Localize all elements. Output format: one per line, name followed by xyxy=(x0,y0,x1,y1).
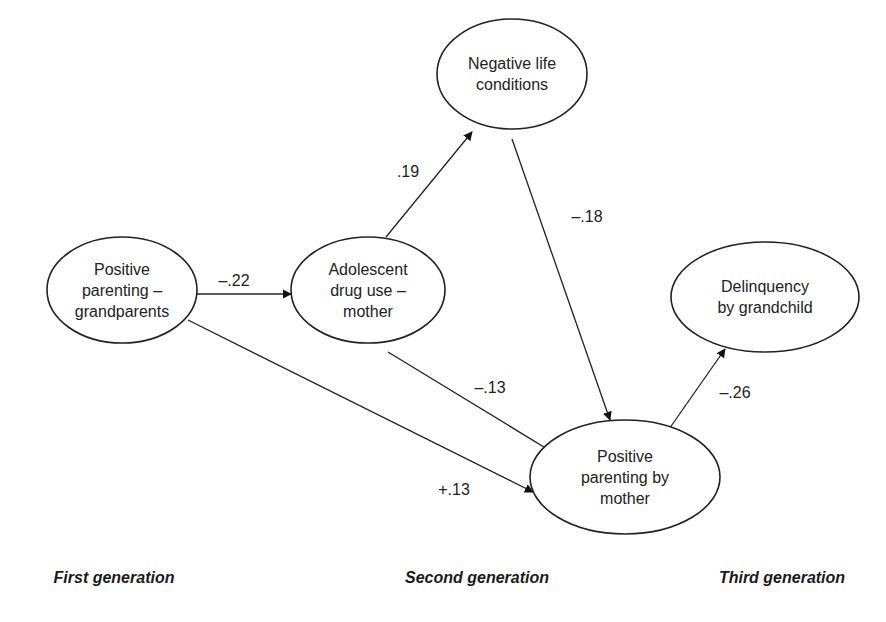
node-negative-life-conditions: Negative life conditions xyxy=(468,53,556,95)
node-label-line: Adolescent xyxy=(328,259,407,280)
node-label-line: parenting by xyxy=(581,467,669,488)
node-positive-parenting-grandparents: Positive parenting – grandparents xyxy=(75,259,169,322)
node-adolescent-drug-use-mother: Adolescent drug use – mother xyxy=(328,259,407,322)
edge-label-drug-to-neg: .19 xyxy=(397,163,419,181)
node-label-line: parenting – xyxy=(75,280,169,301)
edge-label-gp-to-mother: +.13 xyxy=(438,481,470,499)
node-label-line: drug use – xyxy=(328,280,407,301)
node-label-line: grandparents xyxy=(75,301,169,322)
generation-label-second: Second generation xyxy=(405,569,549,587)
generation-label-third: Third generation xyxy=(719,569,845,587)
node-label-line: conditions xyxy=(468,74,556,95)
node-label-line: Positive xyxy=(581,446,669,467)
edge-label-neg-to-mother: –.18 xyxy=(571,208,602,226)
node-label-line: mother xyxy=(328,301,407,322)
node-label-line: Negative life xyxy=(468,53,556,74)
edge-arrow-drug-to-neg xyxy=(386,132,472,237)
node-label-line: Positive xyxy=(75,259,169,280)
edge-label-drug-to-mother: –.13 xyxy=(474,379,505,397)
edge-label-gp-to-drug: –.22 xyxy=(218,272,249,290)
node-delinquency-by-grandchild: Delinquency by grandchild xyxy=(717,276,812,318)
node-label-line: by grandchild xyxy=(717,297,812,318)
edge-label-mother-to-delinq: –.26 xyxy=(719,384,750,402)
edge-arrow-drug-to-mother xyxy=(388,352,557,455)
node-label-line: Delinquency xyxy=(717,276,812,297)
generation-label-first: First generation xyxy=(54,569,175,587)
node-label-line: mother xyxy=(581,488,669,509)
edge-arrow-neg-to-mother xyxy=(512,139,610,420)
edge-arrow-gp-to-mother xyxy=(188,320,533,492)
node-positive-parenting-by-mother: Positive parenting by mother xyxy=(581,446,669,509)
